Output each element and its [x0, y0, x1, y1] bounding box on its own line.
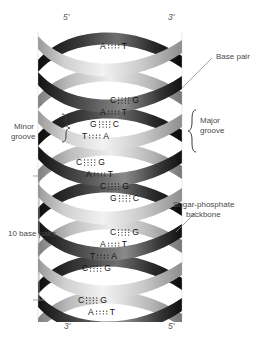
- base-pair-rung: TA: [90, 252, 117, 261]
- base-pair-rung: CG: [110, 96, 139, 105]
- base-pair-rung: GC: [90, 120, 119, 129]
- base-left: A: [100, 41, 106, 51]
- label-backbone-line1: Sugar-phosphate: [173, 200, 234, 210]
- base-pair-rung: CG: [110, 228, 139, 237]
- base-right: G: [100, 295, 107, 305]
- label-major-groove-line1: Major: [200, 116, 220, 126]
- hydrogen-bond-icon: [85, 296, 99, 305]
- base-left: C: [110, 95, 116, 105]
- base-left: G: [90, 119, 97, 129]
- base-right: A: [111, 251, 117, 261]
- base-left: C: [100, 181, 106, 191]
- hydrogen-bond-icon: [96, 252, 110, 261]
- base-pair-rung: CG: [76, 158, 105, 167]
- base-pair-rung: AT: [86, 170, 113, 179]
- label-ten-base-pairs: 10 base pairs: [8, 229, 56, 239]
- base-left: A: [88, 307, 94, 317]
- base-pair-rung: CG: [78, 296, 107, 305]
- base-right: T: [110, 307, 115, 317]
- hydrogen-bond-icon: [95, 308, 109, 317]
- base-right: A: [103, 131, 109, 141]
- base-right: G: [132, 227, 139, 237]
- base-pair-rung: CG: [82, 264, 111, 273]
- base-pair-rung: AT: [100, 42, 127, 51]
- base-right: T: [108, 169, 113, 179]
- base-right: T: [122, 239, 127, 249]
- base-pair-rung: TA: [82, 132, 109, 141]
- base-pair-rung: AT: [100, 240, 127, 249]
- base-left: T: [82, 131, 87, 141]
- hydrogen-bond-icon: [117, 96, 131, 105]
- base-pair-rung: AT: [88, 308, 115, 317]
- hydrogen-bond-icon: [117, 228, 131, 237]
- hydrogen-bond-icon: [93, 170, 107, 179]
- hydrogen-bond-icon: [118, 194, 132, 203]
- label-backbone-line2: backbone: [186, 210, 221, 220]
- base-left: C: [76, 157, 82, 167]
- hydrogen-bond-icon: [107, 240, 121, 249]
- hydrogen-bond-icon: [107, 42, 121, 51]
- label-major-groove-line2: groove: [200, 126, 224, 136]
- base-left: G: [110, 193, 117, 203]
- hydrogen-bond-icon: [89, 264, 103, 273]
- base-right: G: [122, 181, 129, 191]
- base-right: G: [98, 157, 105, 167]
- hydrogen-bond-icon: [107, 182, 121, 191]
- base-left: A: [100, 107, 106, 117]
- base-left: A: [86, 169, 92, 179]
- base-left: A: [100, 239, 106, 249]
- hydrogen-bond-icon: [83, 158, 97, 167]
- dna-diagram: 5' 3' 3' 5': [0, 0, 261, 342]
- label-minor-groove-line2: groove: [11, 132, 35, 142]
- base-right: C: [133, 193, 139, 203]
- base-right: T: [122, 41, 127, 51]
- hydrogen-bond-icon: [88, 132, 102, 141]
- base-right: C: [113, 119, 119, 129]
- label-base-pair: Base pair: [216, 52, 250, 62]
- base-right: G: [104, 263, 111, 273]
- hydrogen-bond-icon: [107, 108, 121, 117]
- base-pair-rung: GC: [110, 194, 139, 203]
- base-left: C: [78, 295, 84, 305]
- base-pair-rung: CG: [100, 182, 129, 191]
- base-right: G: [132, 95, 139, 105]
- label-minor-groove-line1: Minor: [14, 122, 34, 132]
- base-left: C: [82, 263, 88, 273]
- hydrogen-bond-icon: [98, 120, 112, 129]
- base-pair-rung: AT: [100, 108, 127, 117]
- base-right: T: [122, 107, 127, 117]
- base-left: T: [90, 251, 95, 261]
- base-left: C: [110, 227, 116, 237]
